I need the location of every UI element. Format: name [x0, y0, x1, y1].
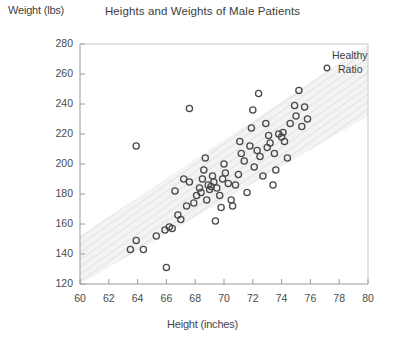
- legend-marker: [324, 65, 330, 71]
- legend-marker-icon: [324, 65, 330, 71]
- data-point: [140, 246, 146, 252]
- y-tick-label: 220: [33, 127, 73, 139]
- data-point: [228, 197, 234, 203]
- y-tick-label: 120: [33, 277, 73, 289]
- data-point: [270, 182, 276, 188]
- y-tick-label: 200: [33, 157, 73, 169]
- data-point: [250, 107, 256, 113]
- healthy-ratio-band: [80, 44, 368, 284]
- data-point: [186, 105, 192, 111]
- y-tick-label: 240: [33, 97, 73, 109]
- data-point: [256, 90, 262, 96]
- data-point: [244, 189, 250, 195]
- y-tick-label: 260: [33, 67, 73, 79]
- scatter-chart-figure: Weight (lbs) Heights and Weights of Male…: [0, 0, 405, 341]
- y-tick-label: 140: [33, 247, 73, 259]
- legend-label-line2: Ratio: [338, 63, 363, 75]
- data-point: [212, 218, 218, 224]
- data-point: [133, 143, 139, 149]
- x-axis-label: Height (inches): [0, 318, 405, 330]
- y-tick-label: 280: [33, 37, 73, 49]
- data-point: [163, 264, 169, 270]
- data-point: [218, 204, 224, 210]
- y-tick-label: 160: [33, 217, 73, 229]
- x-tick-label: 80: [348, 292, 388, 304]
- legend-label-line1: Healthy: [332, 49, 368, 61]
- chart-title: Heights and Weights of Male Patients: [0, 5, 405, 17]
- data-point: [230, 203, 236, 209]
- y-tick-label: 180: [33, 187, 73, 199]
